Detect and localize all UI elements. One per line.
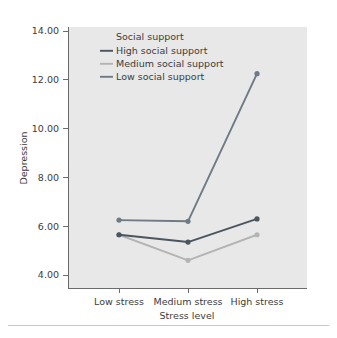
y-axis-title: Depression <box>18 131 29 184</box>
line-chart-figure: 4.006.008.0010.0012.0014.00 Low stressMe… <box>0 0 337 338</box>
data-point-marker <box>254 71 259 76</box>
x-axis-tick-labels: Low stressMedium stressHigh stress <box>94 296 283 307</box>
x-tick-label: Medium stress <box>153 296 222 307</box>
x-axis-title: Stress level <box>160 310 215 321</box>
legend-item-label: High social support <box>116 45 208 56</box>
legend-item-label: Low social support <box>116 71 205 82</box>
data-point-marker <box>185 219 190 224</box>
chart-canvas: 4.006.008.0010.0012.0014.00 Low stressMe… <box>0 0 337 338</box>
y-tick-label: 4.00 <box>38 269 59 280</box>
data-point-marker <box>185 239 190 244</box>
y-axis-tick-labels: 4.006.008.0010.0012.0014.00 <box>32 25 59 280</box>
x-tick-label: Low stress <box>94 296 144 307</box>
legend-title: Social support <box>116 31 184 42</box>
data-point-marker <box>116 218 121 223</box>
legend-item-label: Medium social support <box>116 58 224 69</box>
data-point-marker <box>185 258 190 263</box>
y-tick-label: 10.00 <box>32 123 59 134</box>
x-tick-label: High stress <box>231 296 284 307</box>
data-point-marker <box>116 232 121 237</box>
y-tick-label: 12.00 <box>32 74 59 85</box>
y-tick-label: 6.00 <box>38 221 59 232</box>
y-axis-ticks <box>63 31 68 275</box>
y-tick-label: 14.00 <box>32 25 59 36</box>
data-point-marker <box>254 216 259 221</box>
y-tick-label: 8.00 <box>38 172 59 183</box>
data-point-marker <box>254 232 259 237</box>
